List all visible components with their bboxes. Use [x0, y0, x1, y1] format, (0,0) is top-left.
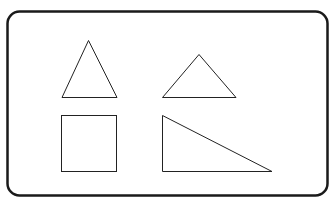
right-triangle — [163, 116, 273, 172]
shapes-diagram — [0, 0, 331, 198]
wide-triangle — [163, 55, 237, 98]
square — [62, 116, 117, 172]
tall-triangle — [62, 41, 117, 98]
frame — [8, 12, 328, 196]
